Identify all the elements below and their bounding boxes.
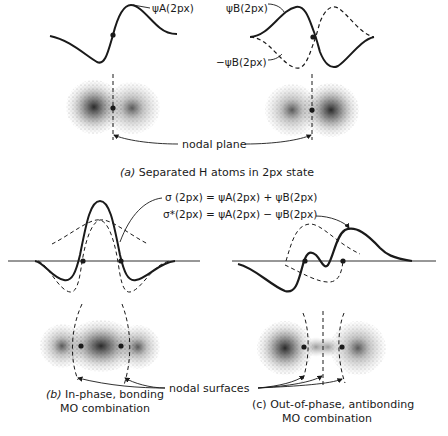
caption-c-line2: MO combination [252,412,402,426]
caption-b-text: In-phase, bonding [65,388,164,401]
sigma-equation: σ (2px) = ψA(2px) + ψB(2px) [165,192,317,203]
sigma-star-equation: σ*(2px) = ψA(2px) − ψB(2px) [163,209,317,220]
caption-b-line1: (b) In-phase, bonding [40,388,170,402]
caption-c-line1: (c) Out-of-phase, antibonding [252,398,402,412]
antibonding-mo-wavefunction [232,216,436,291]
panel-a-electron-clouds [66,74,359,144]
nodal-plane-label: nodal plane [182,139,247,150]
caption-c: (c) Out-of-phase, antibonding MO combina… [252,398,402,426]
caption-a: (a) Separated H atoms in 2px state [120,166,314,180]
psi-b-label: ψB(2px) [226,3,268,14]
psi-a-label: ψA(2px) [152,3,194,14]
bonding-electron-cloud [40,304,165,388]
nucleus-a-dot [110,32,115,37]
neg-psi-b-label: −ψB(2px) [216,57,267,68]
caption-a-letter: (a) [120,166,135,179]
antibonding-electron-cloud [257,311,386,388]
caption-c-letter: (c) [252,398,267,411]
caption-c-text: Out-of-phase, antibonding [270,398,414,411]
caption-a-text: Separated H atoms in 2px state [139,166,314,179]
psi-b-wavefunctions [250,4,374,68]
nucleus-b-dot [310,34,315,39]
caption-b-letter: (b) [46,388,62,401]
nodal-surfaces-label: nodal surfaces [169,383,249,394]
caption-b-line2: MO combination [40,402,170,416]
caption-b: (b) In-phase, bonding MO combination [40,388,170,416]
